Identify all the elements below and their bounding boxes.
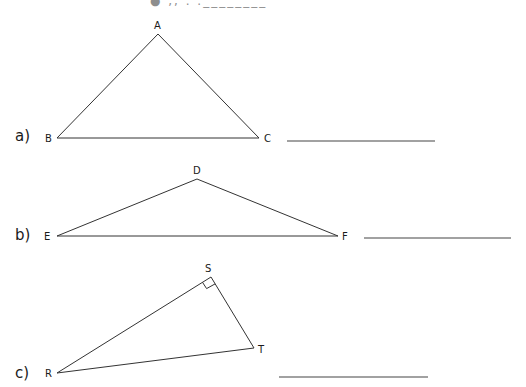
vertex-label-s: S [205, 264, 211, 274]
vertex-label-t: T [258, 345, 264, 355]
right-angle-marker [203, 282, 216, 288]
vertex-label-c: C [264, 134, 271, 144]
vertex-label-e: E [44, 232, 50, 242]
triangle-def [57, 179, 338, 236]
question-label-a: a) [15, 129, 30, 144]
vertex-label-a: A [154, 21, 161, 31]
triangle-abc [57, 34, 259, 138]
question-label-b: b) [15, 228, 30, 243]
vertex-label-b: B [45, 134, 52, 144]
vertex-label-f: F [342, 232, 348, 242]
worksheet: ● ,, . .________ a) b) c) A B C D E F S … [0, 0, 526, 387]
triangle-rst [57, 277, 254, 373]
vertex-label-r: R [45, 369, 52, 379]
vertex-label-d: D [193, 166, 201, 176]
triangles-figure [0, 0, 526, 387]
question-label-c: c) [15, 366, 29, 381]
